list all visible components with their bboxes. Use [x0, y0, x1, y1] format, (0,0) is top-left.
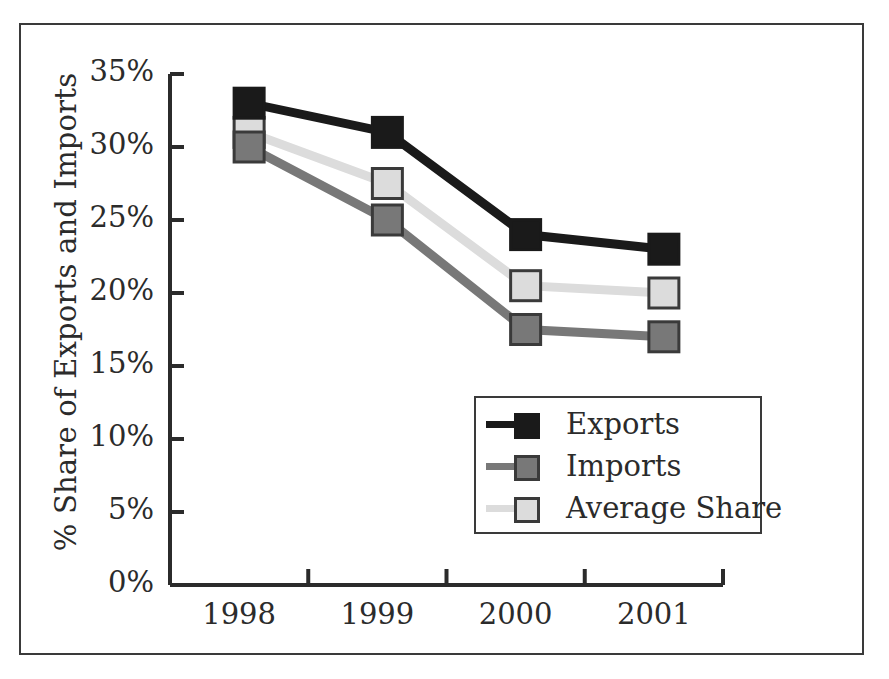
- data-point-marker: [511, 271, 541, 301]
- legend-swatch-exports: [486, 407, 554, 441]
- y-tick-label: 10%: [58, 419, 154, 453]
- y-tick-label: 30%: [58, 127, 154, 161]
- data-point-marker: [234, 132, 264, 162]
- chart-legend: Exports Imports Average Share: [474, 396, 762, 534]
- series-line: [249, 132, 664, 293]
- y-tick-label: 25%: [58, 200, 154, 234]
- y-tick-label: 35%: [58, 54, 154, 88]
- y-tick-label: 15%: [58, 346, 154, 380]
- x-tick-label: 1998: [174, 597, 304, 631]
- data-point-marker: [649, 234, 679, 264]
- data-point-marker: [234, 88, 264, 118]
- legend-swatch-imports: [486, 449, 554, 483]
- legend-label-average-share: Average Share: [566, 491, 782, 525]
- data-point-marker: [511, 220, 541, 250]
- y-tick-label: 5%: [58, 492, 154, 526]
- data-point-marker: [511, 315, 541, 345]
- legend-marker-2: [514, 497, 540, 523]
- data-point-marker: [649, 322, 679, 352]
- data-point-marker: [372, 205, 402, 235]
- legend-swatch-average-share: [486, 491, 554, 525]
- legend-item-average-share[interactable]: Average Share: [486, 488, 782, 528]
- x-tick-label: 1999: [312, 597, 442, 631]
- x-tick-label: 2001: [589, 597, 719, 631]
- data-point-marker: [649, 278, 679, 308]
- data-point-marker: [372, 117, 402, 147]
- legend-label-imports: Imports: [566, 449, 681, 483]
- y-tick-label: 20%: [58, 273, 154, 307]
- legend-label-exports: Exports: [566, 407, 680, 441]
- legend-marker-0: [514, 413, 540, 439]
- data-point-marker: [372, 169, 402, 199]
- legend-item-exports[interactable]: Exports: [486, 404, 680, 444]
- legend-item-imports[interactable]: Imports: [486, 446, 681, 486]
- legend-marker-1: [514, 455, 540, 481]
- chart-page: % Share of Exports and Imports Exports I…: [0, 0, 889, 679]
- y-tick-label: 0%: [58, 565, 154, 599]
- x-tick-label: 2000: [451, 597, 581, 631]
